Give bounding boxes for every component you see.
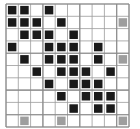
grid-cell-highlight (57, 117, 66, 126)
grid-cell-filled (82, 92, 91, 101)
grid-cell-filled (69, 80, 78, 89)
grid-cell-filled (57, 92, 66, 101)
grid-cell-highlight (20, 117, 29, 126)
grid-cell-filled (20, 31, 29, 40)
grid-cell-filled (82, 67, 91, 76)
grid-cell-highlight (119, 117, 128, 126)
grid-cell-filled (69, 67, 78, 76)
grid-cell-filled (106, 104, 115, 113)
grid-cell-filled (33, 67, 42, 76)
grid-cell-filled (69, 55, 78, 64)
grid-cell-filled (94, 104, 103, 113)
grid-cell-filled (20, 6, 29, 15)
grid-cell-filled (69, 43, 78, 52)
grid-cell-filled (57, 18, 66, 27)
grid-matrix-diagram (0, 0, 140, 129)
grid-cell-filled (57, 43, 66, 52)
grid-cell-filled (20, 18, 29, 27)
grid-cell-filled (33, 18, 42, 27)
grid-cell-filled (106, 67, 115, 76)
grid-cell-highlight (119, 55, 128, 64)
grid-cell-filled (57, 55, 66, 64)
grid-cell-filled (45, 6, 54, 15)
grid-matrix-svg (0, 0, 140, 129)
grid-cell-filled (69, 104, 78, 113)
grid-cell-highlight (119, 18, 128, 27)
grid-cell-filled (8, 6, 17, 15)
grid-cell-filled (94, 55, 103, 64)
grid-cell-filled (45, 43, 54, 52)
grid-cell-filled (45, 55, 54, 64)
grid-cell-filled (20, 55, 29, 64)
grid-cell-filled (94, 92, 103, 101)
grid-cell-filled (8, 18, 17, 27)
grid-cell-filled (33, 31, 42, 40)
grid-cell-filled (45, 31, 54, 40)
grid-cell-filled (106, 92, 115, 101)
grid-cell-filled (45, 80, 54, 89)
grid-cell-filled (94, 80, 103, 89)
grid-cell-filled (69, 31, 78, 40)
grid-cell-filled (94, 43, 103, 52)
grid-cell-filled (8, 43, 17, 52)
grid-cell-filled (82, 80, 91, 89)
grid-cell-filled (57, 67, 66, 76)
